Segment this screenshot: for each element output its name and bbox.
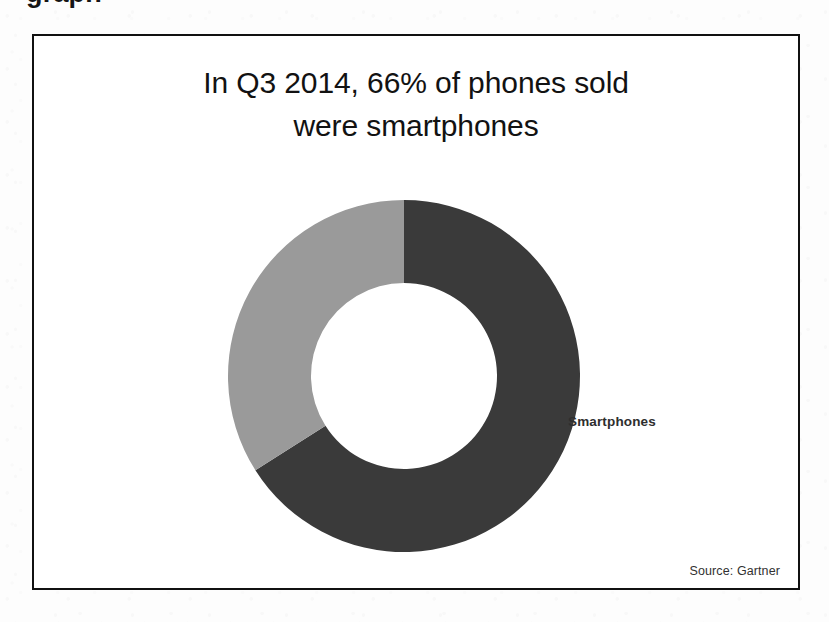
donut-slice-other-phones	[228, 200, 404, 470]
cutoff-heading-above-figure: graph	[26, 0, 326, 8]
donut-chart	[172, 166, 636, 586]
donut-slices	[228, 200, 580, 552]
chart-title-line-2: were smartphones	[34, 105, 798, 148]
source-note: Source: Gartner	[690, 564, 780, 578]
figure-frame: In Q3 2014, 66% of phones sold were smar…	[32, 34, 800, 590]
donut-chart-svg	[172, 166, 636, 586]
chart-title-line-1: In Q3 2014, 66% of phones sold	[34, 62, 798, 105]
series-label-smartphones: Smartphones	[568, 414, 656, 429]
chart-title: In Q3 2014, 66% of phones sold were smar…	[34, 62, 798, 147]
